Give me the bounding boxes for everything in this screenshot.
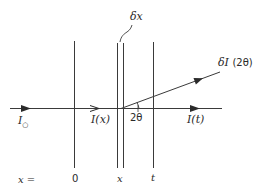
axis-tick-t: t <box>151 173 155 183</box>
diagram-lines <box>0 0 268 194</box>
scattered-angle-label: (2θ) <box>232 57 252 68</box>
incident-subscript: ○ <box>22 121 28 129</box>
scattered-ray <box>121 72 220 109</box>
arrow-it-icon <box>190 105 200 112</box>
slab-width-label: δx <box>130 11 143 22</box>
diffraction-absorption-diagram: δx δI (2θ) I○ I(x) 2θ I(t) x = 0 x t <box>0 0 268 194</box>
arrow-incident-icon <box>21 105 31 112</box>
axis-tick-x: x <box>117 174 123 184</box>
intensity-at-t-label: I(t) <box>187 114 204 125</box>
angle-label: 2θ <box>130 113 142 123</box>
axis-tick-0: 0 <box>72 174 78 184</box>
intensity-at-x-label: I(x) <box>91 114 110 125</box>
arrow-scattered-icon <box>194 78 204 85</box>
slab-width-leader <box>120 25 132 42</box>
scattered-intensity-label: δI (2θ) <box>218 57 253 68</box>
axis-prefix: x = <box>18 175 35 185</box>
scattered-intensity-symbol: δI <box>218 56 229 69</box>
incident-intensity-label: I○ <box>18 115 28 129</box>
